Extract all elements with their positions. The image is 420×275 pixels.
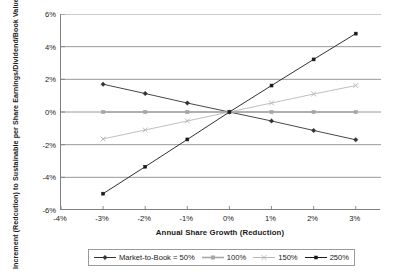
y-axis-tick-label: -4% [32,173,56,182]
data-point-square [354,32,357,35]
data-point-diamond [103,255,107,259]
x-axis-tick-label: 3% [349,214,360,223]
legend-label: Market-to-Book = 50% [119,254,195,262]
legend-item[interactable]: 150% [253,253,297,262]
y-axis-tick-label: 6% [32,10,56,19]
data-point-diamond [101,82,105,86]
data-point-square [144,110,147,113]
legend-label: 100% [227,254,246,262]
plot-canvas [61,14,381,210]
data-point-square [270,110,273,113]
legend-label: 150% [278,254,297,262]
legend-marker-icon [202,253,224,262]
data-point-diamond [354,138,358,142]
x-axis-tick-label: -2% [137,214,151,223]
y-axis-tick-label: -2% [32,140,56,149]
legend-item[interactable]: 250% [305,253,349,262]
legend-item[interactable]: 100% [202,253,246,262]
data-point-square [144,165,147,168]
legend-marker-icon [94,253,116,262]
legend-marker-icon [305,253,327,262]
data-point-square [101,110,104,113]
data-point-square [228,111,231,114]
data-point-square [312,110,315,113]
chart-figure: Increment (Redcution) to Sustainable per… [0,0,420,275]
data-point-square [186,138,189,141]
plot-area [60,14,380,210]
y-axis-tick-label: 0% [32,108,56,117]
data-point-square [102,192,105,195]
y-axis-title: Increment (Redcution) to Sustainable per… [0,0,34,222]
y-axis-tick-label: -6% [32,206,56,215]
legend-item[interactable]: Market-to-Book = 50% [94,253,195,262]
x-axis-tick-label: 2% [307,214,318,223]
legend-marker-icon [253,253,275,262]
data-point-square [354,110,357,113]
data-point-diamond [143,91,147,95]
chart-legend: Market-to-Book = 50%100%150%250% [88,249,355,266]
data-point-diamond [269,119,273,123]
x-axis-tick-label: 0% [223,214,234,223]
y-axis-title-text: Increment (Redcution) to Sustainable per… [12,0,22,269]
data-point-square [186,110,189,113]
data-point-square [270,84,273,87]
y-axis-tick-label: 4% [32,42,56,51]
x-axis-tick-label: 1% [265,214,276,223]
data-point-diamond [185,101,189,105]
data-point-diamond [311,128,315,132]
x-axis-tick-label: -3% [95,214,109,223]
data-point-square [312,58,315,61]
data-point-square [211,256,214,259]
x-axis-tick-label: -1% [180,214,194,223]
legend-label: 250% [330,254,349,262]
data-point-square [314,256,317,259]
x-axis-title: Annual Share Growth (Reduction) [60,228,380,237]
y-axis-tick-label: 2% [32,75,56,84]
series-4 [102,32,358,195]
x-axis-tick-label: -4% [53,214,67,223]
